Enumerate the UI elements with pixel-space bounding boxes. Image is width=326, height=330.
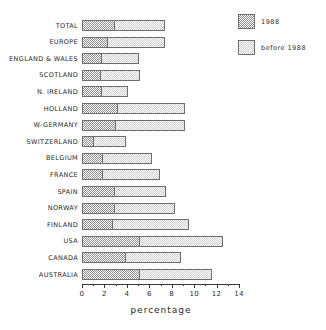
x-axis-tick-label: 10 xyxy=(189,290,199,298)
bar-segment-1988 xyxy=(82,153,103,164)
category-label: SCOTLAND xyxy=(39,71,78,79)
bar-segment-before-1988 xyxy=(100,70,140,81)
bar-row: N. IRELAND xyxy=(82,86,239,97)
bar-segment-before-1988 xyxy=(117,103,185,114)
bar-row: FRANCE xyxy=(82,169,239,180)
category-label: CANADA xyxy=(48,254,78,262)
bar-row: SCOTLAND xyxy=(82,70,239,81)
bar-segment-1988 xyxy=(82,103,118,114)
bar-segment-1988 xyxy=(82,37,108,48)
legend-item-1988: 1988 xyxy=(238,14,326,32)
category-label: NORWAY xyxy=(48,204,78,212)
bar-row: EUROPE xyxy=(82,37,239,48)
bar-segment-before-1988 xyxy=(114,20,165,31)
legend-label-1988: 1988 xyxy=(261,18,280,26)
x-axis-major-tick xyxy=(172,284,173,288)
x-axis-tick-label: 6 xyxy=(147,290,152,298)
bar-segment-1988 xyxy=(82,236,140,247)
x-axis-minor-tick xyxy=(93,284,94,286)
x-axis-minor-tick xyxy=(228,284,229,286)
x-axis-minor-tick xyxy=(116,284,117,286)
bar-segment-before-1988 xyxy=(102,153,151,164)
category-label: USA xyxy=(63,237,78,245)
bar-segment-1988 xyxy=(82,86,102,97)
x-axis-minor-tick xyxy=(183,284,184,286)
category-label: W-GERMANY xyxy=(34,121,78,129)
bar-segment-1988 xyxy=(82,120,116,131)
bar-segment-before-1988 xyxy=(107,37,165,48)
chart-legend: 1988 before 1988 xyxy=(238,14,326,66)
x-axis-major-tick xyxy=(82,284,83,288)
category-label: SPAIN xyxy=(57,188,78,196)
plot-area: TOTALEUROPEENGLAND & WALESSCOTLANDN. IRE… xyxy=(82,16,239,284)
x-axis-tick-label: 8 xyxy=(169,290,174,298)
x-axis-tick-label: 14 xyxy=(234,290,244,298)
category-label: TOTAL xyxy=(56,22,78,30)
bar-row: AUSTRALIA xyxy=(82,269,239,280)
category-label: FRANCE xyxy=(50,171,78,179)
bar-segment-before-1988 xyxy=(139,236,223,247)
bar-row: HOLLAND xyxy=(82,103,239,114)
x-axis-major-tick xyxy=(104,284,105,288)
bar-segment-before-1988 xyxy=(101,86,128,97)
x-axis-title: percentage xyxy=(82,305,240,315)
bar-segment-1988 xyxy=(82,53,102,64)
bar-row: CANADA xyxy=(82,252,239,263)
bar-segment-before-1988 xyxy=(101,53,139,64)
bar-segment-before-1988 xyxy=(139,269,212,280)
bar-segment-1988 xyxy=(82,186,115,197)
bar-row: BELGIUM xyxy=(82,153,239,164)
category-label: BELGIUM xyxy=(46,154,78,162)
bar-row: TOTAL xyxy=(82,20,239,31)
bar-row: W-GERMANY xyxy=(82,120,239,131)
x-axis-major-tick xyxy=(149,284,150,288)
x-axis-minor-tick xyxy=(138,284,139,286)
bar-row: FINLAND xyxy=(82,219,239,230)
bar-row: SWITZERLAND xyxy=(82,136,239,147)
category-label: EUROPE xyxy=(49,38,78,46)
x-axis-tick-label: 12 xyxy=(212,290,222,298)
bar-segment-before-1988 xyxy=(114,203,176,214)
legend-swatch-before-1988 xyxy=(238,40,255,55)
bar-row: USA xyxy=(82,236,239,247)
x-axis-major-tick xyxy=(239,284,240,288)
bar-segment-before-1988 xyxy=(112,219,188,230)
bar-segment-before-1988 xyxy=(125,252,181,263)
bar-segment-1988 xyxy=(82,203,115,214)
x-axis-tick-label: 2 xyxy=(102,290,107,298)
x-axis-major-tick xyxy=(217,284,218,288)
bar-segment-1988 xyxy=(82,70,101,81)
bar-segment-1988 xyxy=(82,169,103,180)
category-label: FINLAND xyxy=(47,221,78,229)
category-label: HOLLAND xyxy=(44,105,78,113)
bar-segment-1988 xyxy=(82,219,113,230)
x-axis-major-tick xyxy=(194,284,195,288)
category-label: AUSTRALIA xyxy=(39,271,78,279)
bar-segment-1988 xyxy=(82,269,140,280)
stacked-bar-chart: TOTALEUROPEENGLAND & WALESSCOTLANDN. IRE… xyxy=(0,0,326,330)
category-label: SWITZERLAND xyxy=(27,138,78,146)
bar-row: ENGLAND & WALES xyxy=(82,53,239,64)
bar-segment-before-1988 xyxy=(93,136,125,147)
bar-row: SPAIN xyxy=(82,186,239,197)
bar-segment-before-1988 xyxy=(115,120,186,131)
x-axis-major-tick xyxy=(127,284,128,288)
x-axis-minor-tick xyxy=(161,284,162,286)
x-axis-minor-tick xyxy=(205,284,206,286)
category-label: ENGLAND & WALES xyxy=(9,55,78,63)
legend-item-before-1988: before 1988 xyxy=(238,40,326,58)
bar-segment-1988 xyxy=(82,252,126,263)
x-axis-tick-label: 4 xyxy=(124,290,129,298)
bar-segment-1988 xyxy=(82,20,115,31)
bar-segment-before-1988 xyxy=(102,169,160,180)
legend-label-before-1988: before 1988 xyxy=(261,44,306,52)
bar-row: NORWAY xyxy=(82,203,239,214)
bar-segment-before-1988 xyxy=(114,186,167,197)
legend-swatch-1988 xyxy=(238,14,255,29)
category-label: N. IRELAND xyxy=(37,88,78,96)
x-axis-tick-label: 0 xyxy=(80,290,85,298)
